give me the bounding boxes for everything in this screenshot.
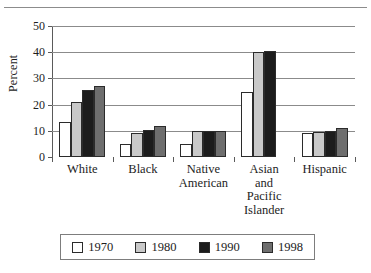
x-axis-label-line: Hispanic	[288, 163, 361, 177]
bar-hispanic-1990	[325, 131, 337, 157]
legend-item-1990[interactable]: 1990	[199, 240, 240, 255]
legend-label: 1970	[88, 240, 113, 255]
bar-native-american-1980	[192, 131, 204, 157]
bar-white-1980	[71, 102, 83, 157]
x-tick-mark	[294, 157, 295, 162]
y-tick-label: 50	[33, 20, 45, 32]
bar-hispanic-1980	[313, 132, 325, 157]
y-axis-title: Percent	[6, 55, 21, 92]
bar-white-1970	[59, 122, 71, 157]
x-tick-mark	[52, 157, 53, 162]
legend-swatch-icon	[199, 242, 210, 253]
bar-hispanic-1970	[302, 133, 314, 157]
legend-label: 1998	[278, 240, 303, 255]
legend-swatch-icon	[72, 242, 83, 253]
legend-item-1970[interactable]: 1970	[72, 240, 113, 255]
bar-white-1990	[82, 90, 94, 157]
bar-black-1998	[154, 126, 166, 157]
chart-legend: 1970198019901998	[60, 234, 315, 260]
x-tick-mark	[355, 157, 356, 162]
x-axis-label-line: Pacific	[228, 190, 301, 204]
x-tick-mark	[234, 157, 235, 162]
bar-group	[113, 26, 174, 157]
bar-group	[173, 26, 234, 157]
x-tick-mark	[113, 157, 114, 162]
bar-group	[294, 26, 355, 157]
x-axis-label: Hispanic	[288, 163, 361, 177]
x-axis-label-line: Islander	[228, 204, 301, 218]
y-tick-label: 40	[33, 46, 45, 58]
top-divider-rule	[4, 7, 367, 8]
bar-group	[52, 26, 113, 157]
bar-black-1990	[143, 130, 155, 158]
plot-area: 01020304050	[52, 26, 355, 157]
y-tick-label: 10	[33, 125, 45, 137]
x-axis-label-line: and	[228, 177, 301, 191]
y-tick-label: 30	[33, 72, 45, 84]
y-tick-label: 0	[39, 151, 45, 163]
bar-native-american-1970	[180, 144, 192, 157]
bar-asian-and-pacific-islander-1970	[241, 92, 253, 158]
bar-hispanic-1998	[336, 128, 348, 157]
y-tick-label: 20	[33, 99, 45, 111]
bar-group	[234, 26, 295, 157]
legend-swatch-icon	[262, 242, 273, 253]
legend-label: 1980	[151, 240, 176, 255]
bar-black-1970	[120, 144, 132, 157]
legend-item-1980[interactable]: 1980	[135, 240, 176, 255]
x-tick-mark	[173, 157, 174, 162]
bar-chart-figure: Percent 01020304050 WhiteBlackNativeAmer…	[0, 0, 371, 273]
bar-asian-and-pacific-islander-1980	[253, 52, 265, 157]
legend-label: 1990	[215, 240, 240, 255]
bar-native-american-1998	[215, 131, 227, 157]
bar-asian-and-pacific-islander-1990	[264, 51, 276, 157]
bar-white-1998	[94, 86, 106, 157]
legend-swatch-icon	[135, 242, 146, 253]
legend-item-1998[interactable]: 1998	[262, 240, 303, 255]
bar-black-1980	[131, 133, 143, 157]
bar-native-american-1990	[203, 131, 215, 157]
